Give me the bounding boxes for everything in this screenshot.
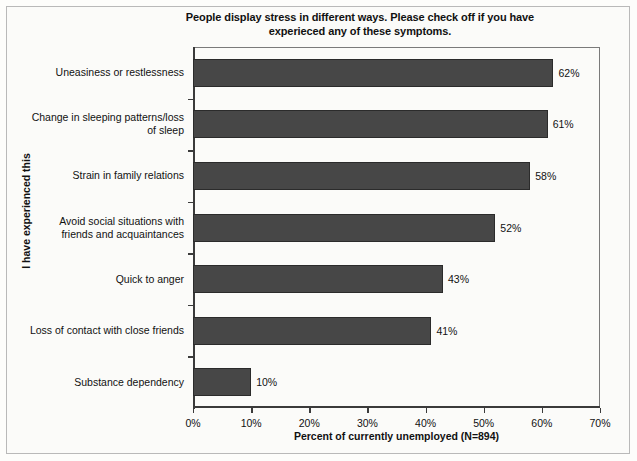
bar (193, 214, 495, 242)
category-label: Quick to anger (9, 273, 184, 286)
y-axis-tick (188, 150, 193, 151)
bar (193, 265, 443, 293)
x-axis-tick (426, 408, 427, 413)
category-label-line: Avoid social situations with (9, 215, 184, 228)
x-axis-tick-label: 70% (589, 417, 610, 429)
category-label: Uneasiness or restlessness (9, 66, 184, 79)
y-axis-title: I have experienced this (20, 136, 32, 286)
x-axis-tick (193, 408, 194, 413)
category-label: Substance dependency (9, 376, 184, 389)
x-axis-tick-label: 50% (473, 417, 494, 429)
bar (193, 162, 530, 190)
bar-value-label: 41% (436, 326, 457, 337)
bar (193, 110, 548, 138)
chart-title: People display stress in different ways.… (150, 10, 570, 38)
category-label-line: of sleep (9, 124, 184, 137)
y-axis-tick (188, 253, 193, 254)
bar-value-label: 52% (500, 223, 521, 234)
bar (193, 317, 431, 345)
chart-page: People display stress in different ways.… (0, 0, 637, 461)
x-axis-tick-label: 0% (185, 417, 200, 429)
bar (193, 59, 553, 87)
x-axis-line (193, 406, 600, 408)
x-axis-tick (367, 408, 368, 413)
y-axis-tick (188, 305, 193, 306)
category-label: Loss of contact with close friends (9, 324, 184, 337)
category-label-line: Loss of contact with close friends (9, 324, 184, 337)
x-axis-tick (600, 408, 601, 413)
chart-title-line-2: experieced any of these symptoms. (150, 24, 570, 38)
x-axis-title: Percent of currently unemployed (N=894) (193, 430, 600, 442)
y-axis-tick (188, 99, 193, 100)
x-axis-tick (484, 408, 485, 413)
x-axis-tick-label: 60% (531, 417, 552, 429)
category-label-line: Change in sleeping patterns/loss (9, 111, 184, 124)
plot-border-right (599, 47, 600, 408)
plot-border-top (193, 47, 600, 48)
x-axis-tick-label: 20% (299, 417, 320, 429)
category-label-line: Quick to anger (9, 273, 184, 286)
bar-value-label: 43% (448, 274, 469, 285)
plot-area: 62%61%58%52%43%41%10% 0%10%20%30%40%50%6… (193, 47, 600, 408)
y-axis-tick (188, 202, 193, 203)
x-axis-tick (309, 408, 310, 413)
category-label: Change in sleeping patterns/lossof sleep (9, 111, 184, 137)
x-axis-tick-label: 30% (357, 417, 378, 429)
bar-value-label: 61% (553, 119, 574, 130)
chart-title-line-1: People display stress in different ways.… (150, 10, 570, 24)
category-label-line: Substance dependency (9, 376, 184, 389)
category-label: Avoid social situations withfriends and … (9, 215, 184, 241)
category-label-line: friends and acquaintances (9, 228, 184, 241)
bar (193, 368, 251, 396)
x-axis-tick-label: 10% (241, 417, 262, 429)
x-axis-tick-label: 40% (415, 417, 436, 429)
category-label-line: Strain in family relations (9, 169, 184, 182)
y-axis-tick (188, 356, 193, 357)
category-label-line: Uneasiness or restlessness (9, 66, 184, 79)
x-axis-tick (251, 408, 252, 413)
bar-value-label: 10% (256, 377, 277, 388)
bar-value-label: 62% (558, 68, 579, 79)
category-label: Strain in family relations (9, 169, 184, 182)
bar-value-label: 58% (535, 171, 556, 182)
x-axis-tick (542, 408, 543, 413)
